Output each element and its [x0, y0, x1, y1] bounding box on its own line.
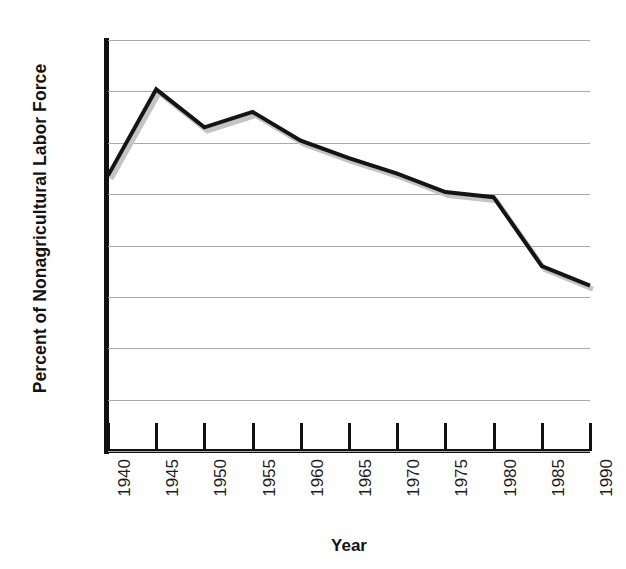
x-axis-tick [107, 423, 110, 451]
x-axis-tick-label: 1985 [549, 459, 569, 529]
x-axis-tick-label: 1965 [356, 459, 376, 529]
x-axis-tick-label: 1980 [501, 459, 521, 529]
gridline [108, 348, 590, 349]
x-axis-tick [589, 423, 592, 451]
chart-figure: Percent of Nonagricultural Labor Force 4… [0, 0, 626, 569]
gridline [108, 91, 590, 92]
gridline [108, 194, 590, 195]
x-axis-tick-label: 1975 [452, 459, 472, 529]
gridline [108, 297, 590, 298]
x-axis-tick [348, 423, 351, 451]
x-axis-tick [444, 423, 447, 451]
x-axis-tick-label: 1990 [597, 459, 617, 529]
x-axis-tick [493, 423, 496, 451]
gridline [108, 40, 590, 41]
x-axis-title: Year [108, 536, 590, 556]
gridline [108, 451, 590, 452]
x-axis-tick-label: 1960 [308, 459, 328, 529]
gridline [108, 143, 590, 144]
x-axis-tick-label: 1950 [211, 459, 231, 529]
x-axis-tick [396, 423, 399, 451]
x-axis-tick-label: 1970 [404, 459, 424, 529]
x-axis-tick-label: 1955 [260, 459, 280, 529]
plot-area [108, 40, 590, 451]
x-axis-tick-label: 1940 [115, 459, 135, 529]
top-caption-sliver [10, 0, 610, 5]
x-axis-tick [155, 423, 158, 451]
x-axis-tick [252, 423, 255, 451]
x-axis-tick [541, 423, 544, 451]
x-axis-tick-label: 1945 [163, 459, 183, 529]
x-axis-tick [203, 423, 206, 451]
gridline [108, 400, 590, 401]
x-axis-tick [300, 423, 303, 451]
gridline [108, 246, 590, 247]
y-axis-title: Percent of Nonagricultural Labor Force [30, 19, 51, 439]
